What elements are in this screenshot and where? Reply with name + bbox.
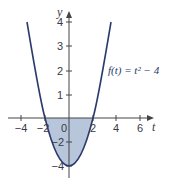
y-tick-label: −2	[51, 136, 64, 148]
x-tick-label: 2	[90, 122, 96, 134]
y-tick-label: 2	[57, 65, 63, 77]
x-axis-label: t	[152, 120, 156, 134]
x-tick-label: −2	[37, 122, 50, 134]
y-tick-label: −4	[51, 160, 64, 172]
x-tick-label: 6	[137, 122, 143, 134]
y-axis-label: y	[56, 5, 63, 19]
chart: −4 −2 0 2 4 6 4 3 2 1 −2 −4 t y f(t) = t…	[0, 0, 173, 184]
x-tick-label: 4	[113, 122, 119, 134]
x-tick-label: −4	[15, 122, 28, 134]
y-tick-label: 3	[57, 40, 63, 52]
function-label: f(t) = t² − 4	[108, 64, 160, 77]
y-tick-label: 1	[57, 89, 63, 101]
x-tick-label: 0	[61, 122, 67, 134]
y-axis-arrow-icon	[66, 11, 72, 18]
